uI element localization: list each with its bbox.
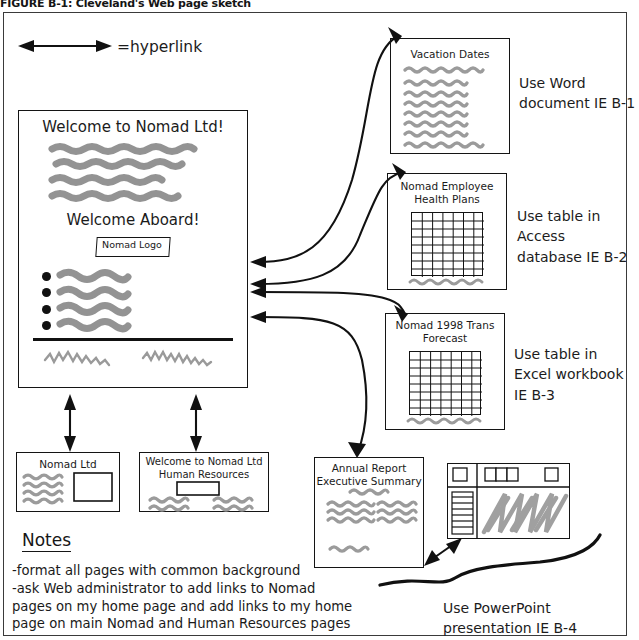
home-page-bullet — [42, 272, 51, 281]
figure-canvas: FIGURE B-1: Cleveland's Web page sketch … — [0, 0, 639, 640]
notes-body: -format all pages with common background… — [12, 562, 372, 633]
health-plans-grid — [411, 212, 483, 276]
vacation-dates-caption: Use Word document IE B-1 — [519, 73, 635, 114]
figure-caption: FIGURE B-1: Cleveland's Web page sketch — [0, 0, 639, 10]
home-page-heading: Welcome to Nomad Ltd! — [18, 118, 248, 137]
home-page-bullet — [42, 288, 51, 297]
health-plans-caption: Use table in Access database IE B-2 — [517, 206, 627, 267]
home-page-bullet — [42, 305, 51, 314]
vacation-dates-title: Vacation Dates — [390, 48, 510, 61]
health-plans-title: Nomad Employee Health Plans — [387, 180, 507, 206]
home-page-subheading: Welcome Aboard! — [18, 211, 248, 230]
nomad-ltd-title: Nomad Ltd — [16, 458, 120, 471]
nomad-hr-title: Welcome to Nomad Ltd Human Resources — [139, 456, 269, 481]
trans-forecast-caption: Use table in Excel workbook IE B-3 — [514, 344, 624, 405]
annual-report-title: Annual Report Executive Summary — [314, 462, 424, 488]
home-page-bullet — [42, 321, 51, 330]
presentation-caption: Use PowerPoint presentation IE B-4 — [443, 598, 577, 639]
trans-forecast-grid — [409, 351, 481, 415]
nomad-logo-label: Nomad Logo — [96, 239, 168, 250]
legend-label: =hyperlink — [117, 36, 202, 58]
home-page-divider — [33, 338, 233, 341]
trans-forecast-title: Nomad 1998 Trans Forecast — [385, 319, 505, 345]
notes-heading: Notes — [22, 530, 71, 552]
presentation-window — [447, 463, 570, 539]
